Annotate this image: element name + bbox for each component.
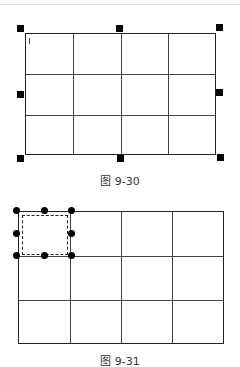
column-divider: [121, 212, 122, 343]
column-divider: [172, 212, 173, 343]
cell-handle-top-center[interactable]: [41, 207, 48, 214]
table-selected[interactable]: [25, 33, 216, 155]
column-divider: [168, 34, 169, 154]
resize-handle-middle-left[interactable]: [17, 91, 24, 98]
resize-handle-top-center[interactable]: [116, 25, 123, 32]
page-top-divider: [0, 4, 240, 5]
cell-handle-top-right[interactable]: [68, 207, 75, 214]
resize-handle-top-right[interactable]: [216, 24, 223, 31]
selected-cell-outline[interactable]: [22, 215, 68, 255]
resize-handle-top-left[interactable]: [17, 25, 24, 32]
row-divider: [26, 115, 215, 116]
row-divider: [19, 300, 223, 301]
cell-handle-bottom-center[interactable]: [41, 252, 48, 259]
column-divider: [121, 34, 122, 154]
cell-handle-bottom-left[interactable]: [13, 252, 20, 259]
resize-handle-middle-right[interactable]: [216, 89, 223, 96]
cell-handle-middle-right[interactable]: [68, 230, 75, 237]
row-divider: [19, 256, 223, 257]
figure-caption: 图 9-30: [0, 172, 240, 188]
text-cursor-icon: [29, 38, 30, 44]
row-divider: [26, 74, 215, 75]
cell-handle-middle-left[interactable]: [13, 230, 20, 237]
resize-handle-bottom-left[interactable]: [17, 155, 24, 162]
cell-handle-top-left[interactable]: [13, 207, 20, 214]
cell-handle-bottom-right[interactable]: [68, 252, 75, 259]
figure-caption: 图 9-31: [0, 352, 240, 367]
column-divider: [73, 34, 74, 154]
resize-handle-bottom-right[interactable]: [217, 154, 224, 161]
resize-handle-bottom-center[interactable]: [117, 155, 124, 162]
